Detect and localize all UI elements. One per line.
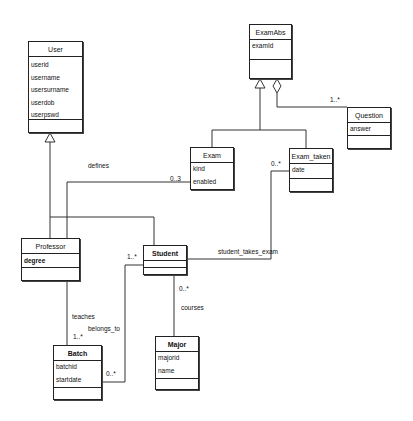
class-name: Exam_taken: [290, 149, 332, 164]
attributes-compartment: batchid startdate: [54, 361, 101, 388]
attribute: startdate: [54, 374, 101, 387]
class-name: Batch: [54, 346, 101, 361]
inheritance-arrow-icon: [255, 79, 265, 88]
multiplicity-label: 0..3: [170, 175, 181, 183]
class-exam-taken[interactable]: Exam_taken date: [289, 148, 333, 192]
attribute: answer: [348, 123, 390, 135]
class-name: Student: [144, 246, 186, 261]
class-name: Exam: [191, 148, 233, 163]
attribute: enabled: [191, 176, 233, 189]
class-batch[interactable]: Batch batchid startdate: [53, 345, 102, 400]
attribute: name: [156, 365, 198, 378]
association-label-defines: defines: [88, 162, 109, 170]
attribute: userpswd: [29, 109, 82, 122]
attribute: degree: [22, 254, 79, 267]
attribute: usersurname: [29, 84, 82, 97]
class-name: Professor: [22, 239, 79, 254]
inheritance-arrow-icon: [45, 133, 55, 142]
class-professor[interactable]: Professor degree: [21, 238, 80, 281]
class-name: Major: [156, 337, 198, 352]
attributes-compartment: userid username usersurname userdob user…: [29, 57, 82, 120]
attributes-compartment: degree: [22, 254, 79, 268]
attributes-compartment: kind enabled: [191, 163, 233, 190]
class-name: User: [29, 42, 82, 57]
attributes-compartment: date: [290, 164, 332, 179]
class-major[interactable]: Major majorid name: [155, 336, 199, 390]
association-label-belongs-to: belongs_to: [88, 325, 120, 333]
multiplicity-label: 1..*: [73, 333, 83, 341]
association-label-teaches: teaches: [72, 313, 95, 321]
attribute: username: [29, 72, 82, 85]
class-student[interactable]: Student: [143, 245, 187, 275]
attribute: kind: [191, 163, 233, 176]
multiplicity-label: 1..*: [127, 253, 137, 261]
association-belongs-to: [101, 265, 143, 382]
attribute: batchid: [54, 361, 101, 374]
association-label-courses: courses: [181, 304, 204, 312]
association-defines: [67, 182, 190, 238]
multiplicity-label: 0..*: [106, 370, 116, 378]
class-question[interactable]: Question answer: [347, 107, 391, 149]
generalization-exam-examtaken: [212, 130, 306, 148]
class-name: Question: [348, 108, 390, 123]
uml-diagram-canvas: User userid username usersurname userdob…: [0, 0, 413, 421]
multiplicity-label: 1..*: [330, 96, 340, 104]
attribute: examId: [250, 40, 291, 53]
attributes-compartment: majorid name: [156, 352, 198, 379]
multiplicity-label: 0..*: [179, 285, 189, 293]
class-name: ExamAbs: [250, 25, 291, 40]
attribute: date: [290, 164, 332, 177]
class-exam[interactable]: Exam kind enabled: [190, 147, 234, 190]
association-label-student-takes-exam: student_takes_exam: [218, 248, 278, 256]
multiplicity-label: 0..*: [271, 160, 281, 168]
class-user[interactable]: User userid username usersurname userdob…: [28, 41, 83, 133]
attribute: majorid: [156, 352, 198, 365]
attribute: userdob: [29, 97, 82, 110]
attributes-compartment: [144, 261, 186, 268]
attribute: userid: [29, 59, 82, 72]
attributes-compartment: answer: [348, 123, 390, 136]
aggregation-diamond-icon: [273, 79, 281, 93]
class-examabs[interactable]: ExamAbs examId: [249, 24, 292, 79]
attributes-compartment: examId: [250, 40, 291, 60]
